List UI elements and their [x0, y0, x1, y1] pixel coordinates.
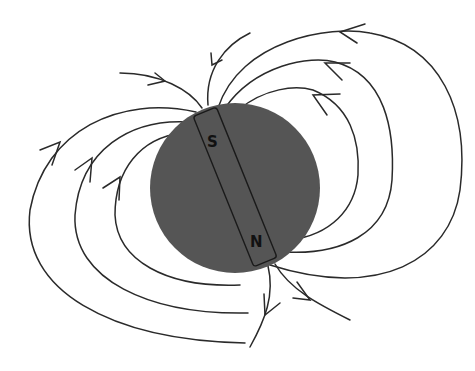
arrow-icon	[340, 24, 365, 43]
arrow-icon	[211, 53, 222, 65]
south-pole-label: S	[207, 133, 218, 151]
arrow-icon	[148, 73, 165, 85]
top-field-lines	[120, 33, 250, 108]
earth-globe	[150, 103, 320, 273]
magnetic-field-diagram: S N	[0, 0, 475, 371]
bottom-field-lines	[250, 264, 350, 347]
north-pole-label: N	[250, 233, 263, 251]
field-line-bottom-left	[250, 266, 270, 347]
field-line-bottom-right	[275, 264, 350, 320]
arrow-icon	[293, 282, 310, 300]
